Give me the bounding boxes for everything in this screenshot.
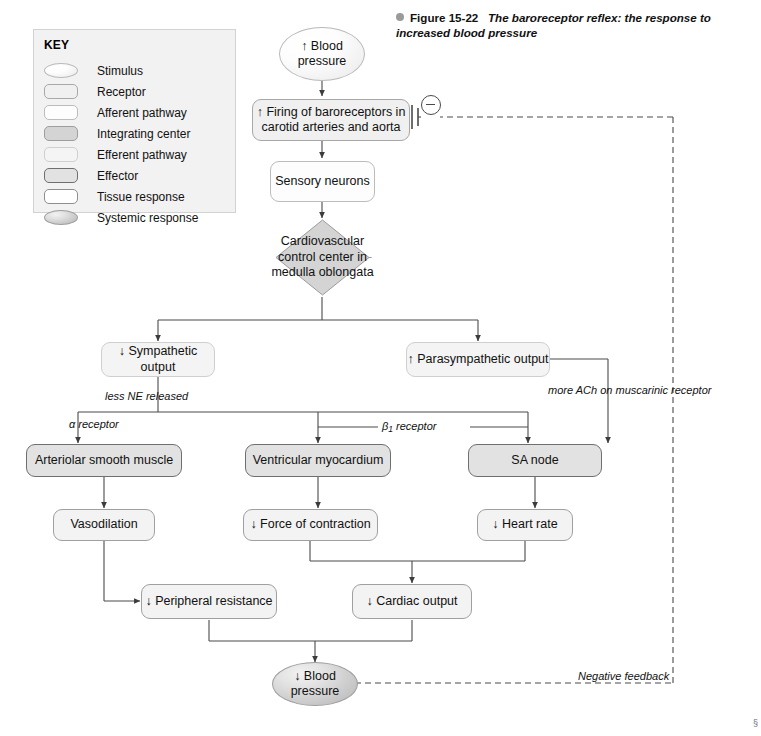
page-corner-mark: § (753, 718, 758, 728)
figure-canvas: KEY Stimulus Receptor Afferent pathway I… (0, 0, 761, 736)
key-swatch-integrating-center (44, 126, 78, 141)
edge-label-more-ach-line1: more ACh on (548, 384, 612, 396)
key-swatch-systemic-response (44, 210, 78, 225)
edge-label-less-ne-released: less NE released (105, 390, 188, 404)
figure-caption: Figure 15-22 The baroreceptor reflex: th… (396, 10, 756, 41)
node-sympathetic-output: ↓ Sympathetic output (101, 342, 215, 377)
node-vasodilation: Vasodilation (53, 509, 155, 541)
node-force-of-contraction: ↓ Force of contraction (243, 509, 378, 541)
edge-label-alpha-receptor: α receptor (69, 418, 119, 432)
node-sa-node: SA node (468, 444, 602, 477)
edge-label-more-ach-line2: muscarinic receptor (615, 384, 711, 396)
node-blood-pressure-decrease: ↓ Blood pressure (272, 662, 358, 706)
key-row-efferent-pathway: Efferent pathway (44, 145, 230, 164)
key-swatch-receptor (44, 84, 78, 99)
node-peripheral-resistance: ↓ Peripheral resistance (141, 584, 277, 619)
node-cardiac-output: ↓ Cardiac output (352, 584, 472, 619)
edge-label-more-ach: more ACh on muscarinic receptor (548, 384, 656, 398)
node-cv-control-center: Cardiovascular control center in medulla… (269, 218, 376, 297)
key-swatch-afferent-pathway (44, 105, 78, 120)
node-cv-control-center-line4: oblongata (319, 265, 374, 279)
key-label-systemic-response: Systemic response (97, 211, 198, 225)
key-label-tissue-response: Tissue response (97, 190, 185, 204)
node-force-of-contraction-label: ↓ Force of contraction (250, 517, 370, 532)
node-sympathetic-output-label: ↓ Sympathetic output (102, 344, 214, 375)
key-row-receptor: Receptor (44, 82, 230, 101)
node-blood-pressure-increase-line2: pressure (298, 54, 347, 69)
key-label-stimulus: Stimulus (97, 64, 143, 78)
inhibition-minus-icon (421, 95, 441, 115)
node-baroreceptor-firing: ↑ Firing of baroreceptors in carotid art… (252, 99, 410, 141)
node-blood-pressure-decrease-line1: ↓ Blood (291, 669, 340, 684)
node-peripheral-resistance-label: ↓ Peripheral resistance (145, 594, 272, 609)
key-row-effector: Effector (44, 166, 230, 185)
node-parasympathetic-output-label: ↑ Parasympathetic output (407, 352, 548, 367)
edge-label-negative-feedback-line1: Negative (578, 670, 621, 682)
key-label-integrating-center: Integrating center (97, 127, 190, 141)
key-label-effector: Effector (97, 169, 138, 183)
bullet-dot-icon (396, 13, 404, 21)
key-row-tissue-response: Tissue response (44, 187, 230, 206)
node-ventricular-myocardium: Ventricular myocardium (245, 444, 391, 477)
key-row-stimulus: Stimulus (44, 61, 230, 80)
key-row-afferent-pathway: Afferent pathway (44, 103, 230, 122)
node-ventricular-myocardium-label: Ventricular myocardium (253, 453, 384, 468)
key-swatch-effector (44, 168, 78, 183)
node-baroreceptor-firing-line1: ↑ Firing of baroreceptors in (257, 105, 406, 120)
edge-label-beta1-word: receptor (393, 420, 436, 432)
edge-label-beta1-receptor: β1 receptor (382, 420, 436, 435)
figure-number: Figure 15-22 (410, 11, 478, 24)
node-blood-pressure-decrease-line2: pressure (291, 684, 340, 699)
key-label-afferent-pathway: Afferent pathway (97, 106, 187, 120)
key-title: KEY (44, 38, 69, 52)
node-heart-rate: ↓ Heart rate (477, 509, 573, 541)
key-legend: KEY Stimulus Receptor Afferent pathway I… (33, 29, 236, 213)
node-arteriolar-smooth-muscle: Arteriolar smooth muscle (26, 444, 182, 477)
node-sa-node-label: SA node (511, 453, 558, 468)
node-sensory-neurons: Sensory neurons (270, 161, 375, 202)
node-cv-control-center-line2: control center (278, 250, 354, 264)
node-sensory-neurons-label: Sensory neurons (275, 174, 370, 189)
key-label-receptor: Receptor (97, 85, 146, 99)
key-swatch-tissue-response (44, 189, 78, 204)
node-cv-control-center-line1: Cardiovascular (281, 234, 364, 248)
node-vasodilation-label: Vasodilation (70, 517, 137, 532)
key-swatch-stimulus (44, 63, 78, 78)
key-row-integrating-center: Integrating center (44, 124, 230, 143)
edge-label-negative-feedback-line2: feedback (624, 670, 669, 682)
inhibition-marker (412, 105, 421, 129)
key-row-systemic-response: Systemic response (44, 208, 230, 227)
node-parasympathetic-output: ↑ Parasympathetic output (406, 342, 550, 377)
node-blood-pressure-increase-line1: ↑ Blood (298, 39, 347, 54)
node-arteriolar-smooth-muscle-label: Arteriolar smooth muscle (35, 453, 173, 468)
edge-label-negative-feedback: Negative feedback (578, 670, 669, 684)
key-label-efferent-pathway: Efferent pathway (97, 148, 187, 162)
node-baroreceptor-firing-line2: carotid arteries and aorta (257, 120, 406, 135)
node-cardiac-output-label: ↓ Cardiac output (366, 594, 457, 609)
key-swatch-efferent-pathway (44, 147, 78, 162)
node-heart-rate-label: ↓ Heart rate (492, 517, 557, 532)
node-blood-pressure-increase: ↑ Blood pressure (279, 27, 365, 81)
